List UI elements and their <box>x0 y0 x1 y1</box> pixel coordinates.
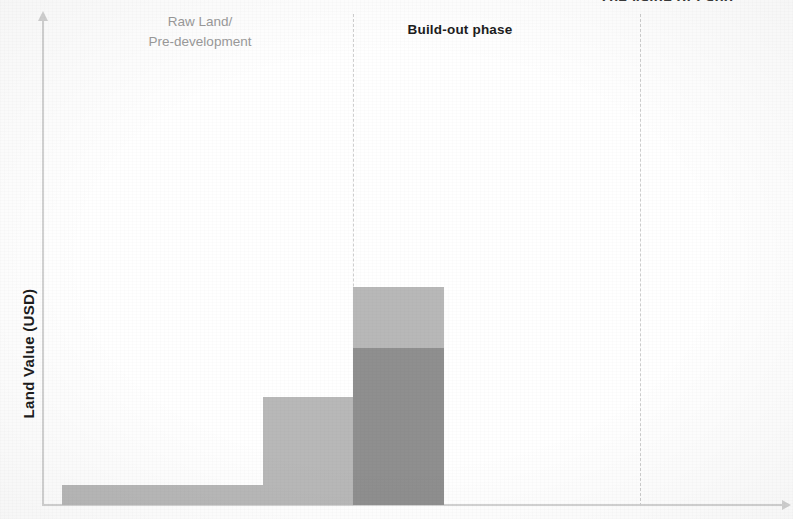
bar-segment-base <box>62 485 263 505</box>
phase-label-raw-land-line1: Raw Land/ <box>100 12 300 32</box>
phase-label-build-out-line1: Build-out phase <box>360 20 560 40</box>
x-axis-arrow-icon <box>782 500 791 510</box>
bar-segment-uplift <box>353 287 444 348</box>
bar-entitlement <box>263 397 353 505</box>
phase-label-raw-land: Raw Land/ Pre-development <box>100 12 300 52</box>
bar-build-out <box>353 287 444 505</box>
page-title: The value of Land <box>540 0 793 1</box>
phase-divider-2 <box>640 14 641 506</box>
y-axis-line <box>42 18 44 506</box>
phase-label-raw-land-line2: Pre-development <box>100 32 300 52</box>
bar-segment-base <box>353 348 444 505</box>
phase-label-build-out: Build-out phase <box>360 20 560 40</box>
chart-canvas: The value of Land Land Value (USD) Raw L… <box>0 0 793 519</box>
y-axis-label: Land Value (USD) <box>20 254 37 454</box>
bar-segment-base <box>263 397 353 505</box>
bar-raw-land <box>62 485 263 505</box>
